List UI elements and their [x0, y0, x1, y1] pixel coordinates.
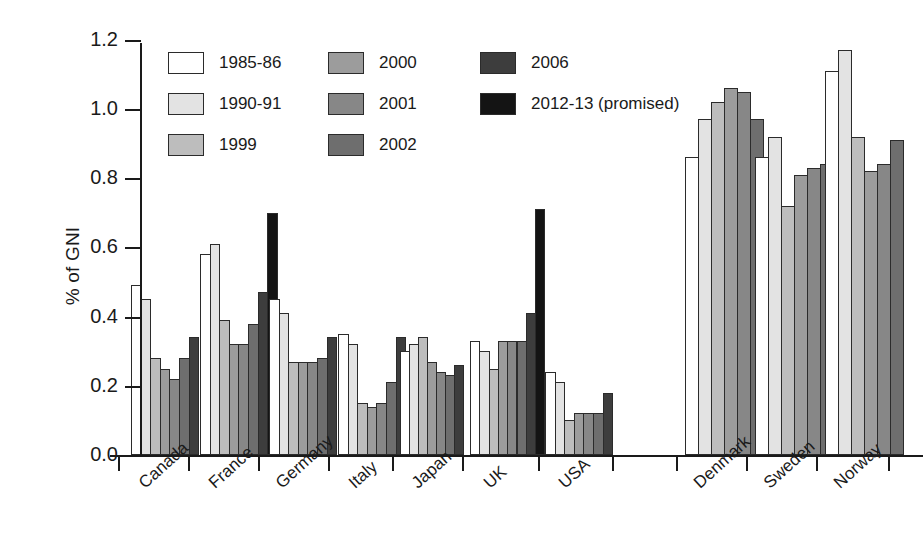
bar: [794, 175, 808, 455]
y-tick-label: 1.2: [40, 28, 118, 51]
bar-chart: % of GNI 0.00.20.40.60.81.01.2 CanadaFra…: [0, 0, 923, 559]
legend-column: 20062012-13 (promised): [480, 42, 679, 124]
legend-item: 2006: [480, 42, 679, 83]
x-tick-mark: [676, 455, 678, 471]
bar: [189, 337, 200, 455]
x-tick-mark: [118, 455, 120, 471]
x-tick-mark: [888, 455, 890, 471]
x-tick-mark: [188, 455, 190, 471]
bar: [807, 168, 821, 455]
y-tick-mark: [125, 317, 141, 319]
x-tick-mark: [258, 455, 260, 471]
bar: [851, 137, 865, 455]
legend-item: 1990-91: [168, 83, 281, 124]
legend-label: 1999: [219, 135, 257, 155]
bar: [890, 140, 904, 455]
y-tick-mark: [125, 386, 141, 388]
legend-label: 1990-91: [219, 94, 281, 114]
bar: [535, 209, 545, 455]
y-tick-mark: [125, 455, 141, 457]
x-tick-mark: [816, 455, 818, 471]
x-tick-mark: [538, 455, 540, 471]
y-tick-mark: [125, 109, 141, 111]
legend-swatch-icon: [480, 93, 516, 115]
legend-label: 2002: [379, 135, 417, 155]
legend-swatch-icon: [328, 93, 364, 115]
legend-label: 2012-13 (promised): [531, 94, 679, 114]
legend-label: 2001: [379, 94, 417, 114]
legend-item: 2000: [328, 42, 417, 83]
x-tick-mark: [612, 455, 614, 471]
y-tick-label: 0.8: [40, 166, 118, 189]
x-tick-mark: [462, 455, 464, 471]
y-tick-label: 0.4: [40, 305, 118, 328]
bar: [781, 206, 795, 455]
y-tick-mark: [125, 40, 141, 42]
bar: [768, 137, 782, 455]
bar: [877, 164, 891, 455]
y-tick-mark: [125, 247, 141, 249]
bar: [454, 365, 464, 455]
bar: [698, 119, 712, 455]
bar: [685, 157, 699, 455]
legend-item: 2002: [328, 124, 417, 165]
bar: [711, 102, 725, 455]
legend-swatch-icon: [328, 134, 364, 156]
legend-column: 200020012002: [328, 42, 417, 165]
legend-item: 1985-86: [168, 42, 281, 83]
x-tick-mark: [392, 455, 394, 471]
legend-label: 2006: [531, 53, 569, 73]
legend-swatch-icon: [168, 93, 204, 115]
legend-swatch-icon: [168, 134, 204, 156]
legend-swatch-icon: [480, 52, 516, 74]
legend-label: 2000: [379, 53, 417, 73]
y-tick-label: 1.0: [40, 97, 118, 120]
legend-label: 1985-86: [219, 53, 281, 73]
bar: [864, 171, 878, 455]
x-tick-mark: [328, 455, 330, 471]
bar: [838, 50, 852, 455]
x-tick-mark: [746, 455, 748, 471]
legend-item: 1999: [168, 124, 281, 165]
legend-item: 2001: [328, 83, 417, 124]
y-tick-label: 0.2: [40, 374, 118, 397]
legend-swatch-icon: [328, 52, 364, 74]
y-tick-label: 0.6: [40, 235, 118, 258]
legend-swatch-icon: [168, 52, 204, 74]
legend-item: 2012-13 (promised): [480, 83, 679, 124]
y-tick-mark: [125, 178, 141, 180]
bar: [825, 71, 839, 455]
bar: [737, 92, 751, 455]
bar: [603, 393, 614, 455]
bar: [724, 88, 738, 455]
legend-column: 1985-861990-911999: [168, 42, 281, 165]
bar: [755, 157, 769, 455]
y-tick-label: 0.0: [40, 443, 118, 466]
